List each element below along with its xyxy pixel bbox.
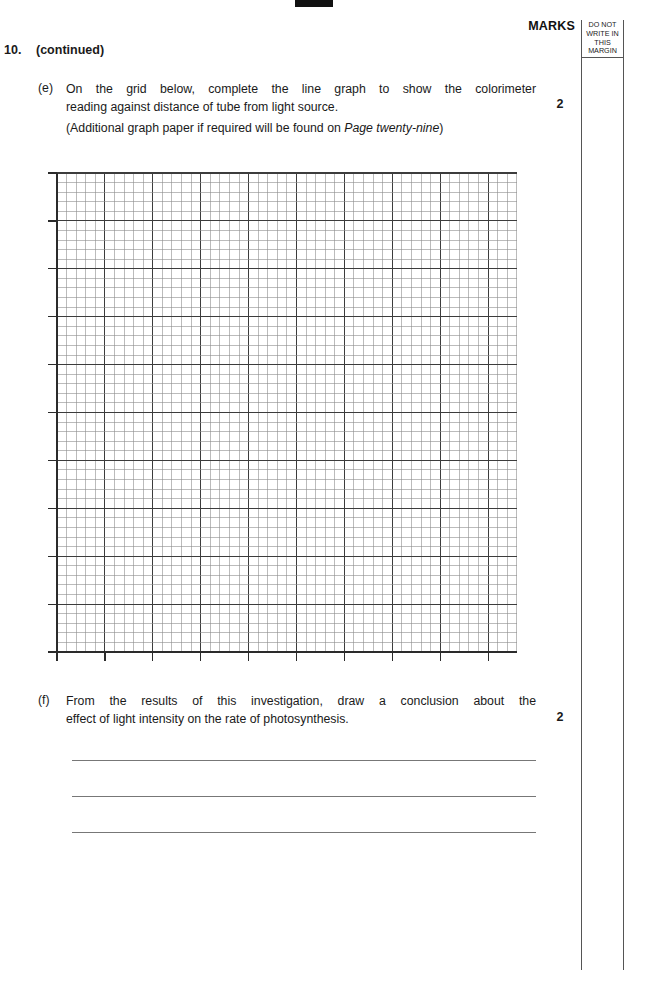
margin-header-divider xyxy=(581,57,624,58)
graph-paper-grid[interactable] xyxy=(48,166,528,666)
part-f-text: From the results of this investigation, … xyxy=(66,693,536,728)
registration-mark xyxy=(295,0,333,7)
part-f-text-line-1: From the results of this investigation, … xyxy=(66,693,536,711)
question-number: 10. xyxy=(4,43,21,57)
part-e-text-line-2: reading against distance of tube from li… xyxy=(66,99,536,117)
answer-line[interactable] xyxy=(72,760,536,761)
part-e-note-prefix: (Additional graph paper if required will… xyxy=(66,121,344,135)
margin-note-line-4: MARGIN xyxy=(582,47,623,56)
marks-column-header: MARKS xyxy=(505,19,575,33)
part-e-text-line-1: On the grid below, complete the line gra… xyxy=(66,81,536,99)
answer-line[interactable] xyxy=(72,796,536,797)
part-f-text-line-2: effect of light intensity on the rate of… xyxy=(66,711,536,729)
margin-rule-left xyxy=(581,20,582,970)
answer-line[interactable] xyxy=(72,832,536,833)
margin-rule-right xyxy=(623,20,624,970)
part-e-letter: (e) xyxy=(38,81,53,95)
part-e-text: On the grid below, complete the line gra… xyxy=(66,81,536,116)
part-e-note: (Additional graph paper if required will… xyxy=(66,120,546,138)
question-status: (continued) xyxy=(36,43,104,57)
part-e-note-page-reference: Page twenty-nine xyxy=(344,121,439,135)
do-not-write-in-this-margin-note: DO NOT WRITE IN THIS MARGIN xyxy=(582,21,623,56)
part-e-marks-value: 2 xyxy=(552,97,568,111)
graph-grid-svg xyxy=(48,166,528,666)
part-f-letter: (f) xyxy=(38,693,50,707)
part-e-note-suffix: ) xyxy=(439,121,443,135)
part-f-marks-value: 2 xyxy=(552,710,568,724)
